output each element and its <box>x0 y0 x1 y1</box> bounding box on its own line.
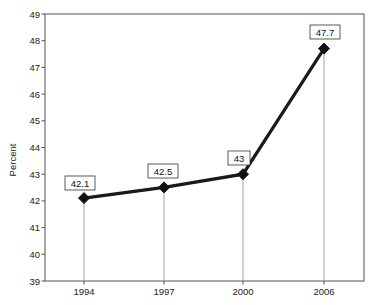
x-tick-label-1994: 1994 <box>73 286 94 297</box>
data-label-2006: 47.7 <box>310 25 340 39</box>
data-label-1994: 42.1 <box>65 176 95 190</box>
y-tick-label: 41 <box>29 222 40 233</box>
chart-container: 49 48 47 46 45 44 43 42 41 40 39 Perce <box>0 0 373 305</box>
data-label-2000: 43 <box>228 151 250 165</box>
x-tick-label-2006: 2006 <box>313 286 334 297</box>
x-axis-ticks <box>84 281 324 285</box>
y-tick-label: 42 <box>29 195 40 206</box>
data-label-value: 43 <box>234 153 245 164</box>
data-label-value: 42.1 <box>71 178 90 189</box>
y-tick-label: 48 <box>29 35 40 46</box>
y-tick-label: 45 <box>29 115 40 126</box>
data-label-value: 47.7 <box>316 27 335 38</box>
data-label-value: 42.5 <box>154 166 173 177</box>
y-tick-label: 39 <box>29 276 40 287</box>
line-chart: 49 48 47 46 45 44 43 42 41 40 39 Perce <box>0 0 373 305</box>
plot-background <box>45 14 364 281</box>
y-tick-label: 49 <box>29 9 40 20</box>
y-axis-title: Percent <box>7 143 18 176</box>
y-tick-label: 46 <box>29 89 40 100</box>
data-label-1997: 42.5 <box>148 164 178 178</box>
y-tick-label: 44 <box>29 142 40 153</box>
x-axis-labels: 1994 1997 2000 2006 <box>73 286 334 297</box>
y-tick-label: 43 <box>29 169 40 180</box>
x-tick-label-1997: 1997 <box>153 286 174 297</box>
y-axis-ticks: 49 48 47 46 45 44 43 42 41 40 39 <box>29 9 45 287</box>
y-tick-label: 40 <box>29 249 40 260</box>
x-tick-label-2000: 2000 <box>232 286 253 297</box>
y-tick-label: 47 <box>29 62 40 73</box>
